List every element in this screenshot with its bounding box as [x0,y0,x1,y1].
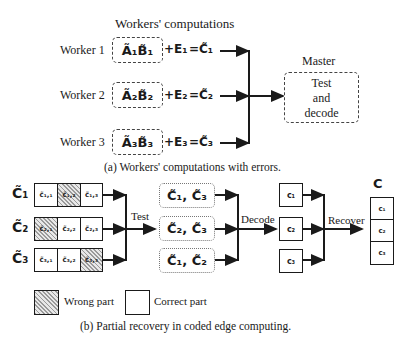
pair-box-2: C̃₂, C̃₃ [159,216,215,241]
master-line-test: Test [285,76,358,91]
error-term: +E₁ [164,42,188,56]
master-line-decode: decode [285,106,358,121]
final-part-2: c₂ [371,220,393,242]
worker-label: Worker 1 [60,43,105,58]
recover-label: Recover [328,214,365,226]
pair-box-3: C̃₁, C̃₂ [159,248,215,273]
decode-label: Decode [241,213,275,225]
final-result-stack: c₁ c₂ c₃ [370,197,394,265]
error-term: +E₂ [164,88,188,102]
correct-part-cell: c̃₃,₂ [58,249,81,271]
final-part-3: c₃ [371,242,393,263]
worker-label: Worker 3 [60,135,105,150]
final-part-1: c₁ [371,198,393,220]
correct-part-cell: c̃₃,₁ [35,249,58,271]
coded-result-label-1: C̃₁ [12,185,28,201]
final-result-label: C [373,176,383,191]
correct-part-cell: c̃₂,₂ [58,218,81,240]
master-box: Test and decode [284,72,359,123]
decoded-part-1: c₁ [279,183,303,207]
worker-product-box: Ã₁B̃₁ [112,37,163,63]
coded-result-label-2: C̃₂ [12,219,28,235]
result-term: =C̃₃ [189,135,213,149]
coded-result-strip-2: c̃₂,₁ c̃₂,₂ c̃₂,₃ [34,217,103,241]
worker-product-box: Ã₂B̃₂ [112,82,163,108]
pair-box-1: C̃₁, C̃₃ [159,183,215,208]
error-term: +E₃ [164,135,188,149]
result-term: =C̃₂ [189,88,213,102]
caption-b: (b) Partial recovery in coded edge compu… [80,320,291,332]
test-label: Test [131,210,149,222]
coded-result-strip-3: c̃₃,₁ c̃₃,₂ c̃₃,₃ [34,248,103,272]
correct-part-cell: c̃₂,₃ [81,218,102,240]
legend-wrong-label: Wrong part [64,295,114,307]
correct-part-cell: c̃₁,₃ [81,184,102,206]
panel-a-heading: Workers' computations [115,16,234,32]
master-line-and: and [285,91,358,106]
worker-label: Worker 2 [60,88,105,103]
caption-a: (a) Workers' computations with errors. [104,161,281,173]
wrong-part-cell: c̃₂,₁ [35,218,58,240]
master-title: Master [302,54,335,69]
worker-product-box: Ã₃B̃₃ [112,129,163,155]
coded-result-strip-1: c̃₁,₁ c̃₁,₂ c̃₁,₃ [34,183,103,207]
legend-correct-swatch [125,290,150,315]
wrong-part-cell: c̃₃,₃ [81,249,102,271]
legend-wrong-swatch [34,290,59,315]
coded-result-label-3: C̃₃ [12,250,28,266]
correct-part-cell: c̃₁,₁ [35,184,58,206]
decoded-part-3: c₃ [279,249,303,273]
legend-correct-label: Correct part [154,295,207,307]
wrong-part-cell: c̃₁,₂ [58,184,81,206]
decoded-part-2: c₂ [279,217,303,241]
result-term: =C̃₁ [189,42,213,56]
